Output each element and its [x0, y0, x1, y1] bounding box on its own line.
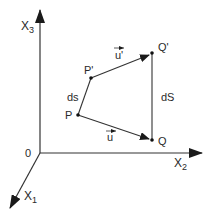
- x1-label: X1: [24, 189, 37, 205]
- label-Q-prime: Q': [158, 41, 169, 53]
- point-Q-prime: [150, 51, 154, 55]
- label-u-prime: u': [115, 49, 123, 61]
- x3-label: X3: [21, 19, 34, 35]
- vector-u: [78, 115, 149, 139]
- label-ds: ds: [67, 91, 79, 103]
- point-P: [76, 113, 80, 117]
- point-Q: [150, 138, 154, 142]
- deformation-diagram: X3 X2 X1 0 P P' Q Q' ds dS u u': [0, 0, 216, 220]
- x2-label: X2: [174, 156, 187, 172]
- label-P-prime: P': [84, 64, 93, 76]
- segment-ds: [78, 78, 91, 115]
- point-P-prime: [89, 76, 93, 80]
- origin-label: 0: [25, 147, 31, 159]
- label-u: u: [107, 131, 113, 143]
- label-dS: dS: [161, 91, 174, 103]
- label-P: P: [65, 109, 72, 121]
- label-Q: Q: [158, 135, 167, 147]
